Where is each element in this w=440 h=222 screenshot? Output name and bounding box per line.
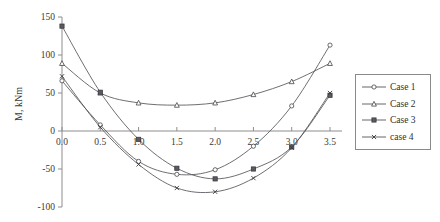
y-tick-label: 100 — [41, 50, 56, 60]
series-line — [62, 63, 330, 105]
y-axis-tick-marks — [58, 17, 62, 207]
legend-item-list: Case 1Case 2Case 3case 4 — [356, 75, 430, 149]
legend-item-3[interactable]: Case 3 — [356, 112, 430, 128]
data-point-marker — [251, 167, 255, 171]
legend-item-4[interactable]: case 4 — [356, 129, 430, 145]
legend-marker-circle-icon — [361, 81, 387, 93]
legend-item-1[interactable]: Case 1 — [356, 79, 430, 95]
y-tick-label: -100 — [38, 202, 56, 212]
y-axis-title: M, kNm — [13, 87, 24, 121]
data-point-marker — [60, 24, 64, 28]
series-line — [62, 26, 330, 179]
x-tick-label: 0.5 — [94, 137, 106, 147]
legend-label: Case 1 — [390, 82, 416, 92]
data-point-marker — [251, 176, 255, 180]
legend-marker-triangle-icon — [361, 98, 387, 110]
data-point-marker — [251, 144, 255, 148]
data-point-marker — [290, 104, 294, 108]
legend-item-2[interactable]: Case 2 — [356, 96, 430, 112]
data-point-marker — [213, 168, 217, 172]
legend-label: Case 2 — [390, 99, 416, 109]
legend-label: case 4 — [390, 132, 413, 142]
data-point-marker — [60, 61, 65, 66]
data-point-marker — [175, 172, 179, 176]
data-point-marker — [328, 43, 332, 47]
series-2 — [60, 61, 333, 108]
data-point-marker — [175, 166, 179, 170]
x-tick-label: 3.5 — [324, 137, 336, 147]
data-point-marker — [136, 137, 140, 141]
x-tick-label: 2.0 — [209, 137, 221, 147]
y-tick-label: 150 — [41, 12, 56, 22]
x-tick-label: 1.5 — [171, 137, 183, 147]
series-layer — [60, 24, 333, 194]
data-point-marker — [60, 79, 64, 83]
series-line — [62, 45, 330, 175]
legend-label: Case 3 — [390, 115, 416, 125]
data-point-marker — [328, 61, 333, 66]
legend-marker-square-icon — [361, 114, 387, 126]
y-axis-tick-labels: 150100500-50-100 — [38, 12, 56, 212]
y-tick-label: 0 — [50, 126, 55, 136]
legend-marker-cross-icon — [361, 131, 387, 143]
series-3 — [60, 24, 332, 181]
data-point-marker — [98, 90, 102, 94]
chart-legend: Case 1Case 2Case 3case 4 — [355, 74, 431, 150]
y-tick-label: -50 — [42, 164, 55, 174]
data-point-marker — [175, 186, 179, 190]
chart-figure: 150100500-50-100 0.00.51.01.52.02.53.03.… — [0, 0, 440, 222]
y-tick-label: 50 — [46, 88, 56, 98]
data-point-marker — [213, 177, 217, 181]
series-1 — [60, 43, 332, 176]
